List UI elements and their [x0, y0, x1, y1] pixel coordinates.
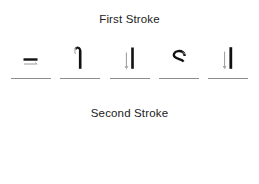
s-first-stroke-icon: [157, 45, 201, 75]
section-second-stroke: Second Stroke: [0, 92, 259, 184]
e-first-stroke-icon: [9, 45, 53, 75]
glyph-cell-f-first: [58, 45, 102, 85]
section-title-second-stroke: Second Stroke: [0, 92, 259, 120]
t-first-stroke-icon: [206, 45, 250, 75]
glyph-cell-k-first: [108, 45, 152, 85]
worksheet: First Stroke: [0, 0, 259, 184]
section-title-first-stroke: First Stroke: [0, 0, 259, 26]
writing-baseline: [208, 78, 248, 79]
section-first-stroke: First Stroke: [0, 0, 259, 92]
glyph-cell-s-first: [157, 45, 201, 85]
writing-baseline: [60, 78, 100, 79]
glyph-cell-e-first: [9, 45, 53, 85]
k-first-stroke-icon: [108, 45, 152, 75]
writing-baseline: [110, 78, 150, 79]
glyph-row-first-stroke: [0, 45, 259, 85]
f-first-stroke-icon: [58, 45, 102, 75]
writing-baseline: [11, 78, 51, 79]
glyph-cell-t-first: [206, 45, 250, 85]
writing-baseline: [159, 78, 199, 79]
